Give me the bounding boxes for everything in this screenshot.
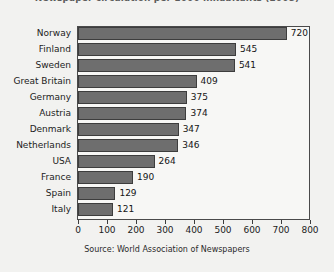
bar [78,91,187,104]
x-axis-tick [252,220,253,224]
bar-value-label: 346 [182,138,199,154]
bar [78,123,179,136]
bar-value-label: 121 [117,202,134,218]
bar [78,171,133,184]
source-caption: Source: World Association of Newspapers [0,245,334,254]
bar-row: Austria374 [0,106,334,122]
bar-row: Denmark347 [0,122,334,138]
x-axis-tick [165,220,166,224]
bar-value-label: 541 [239,58,256,74]
bar-row: Finland545 [0,42,334,58]
bar-value-label: 190 [137,170,154,186]
bar-category-label: Denmark [0,122,71,138]
bar-row: Great Britain409 [0,74,334,90]
bar [78,155,155,168]
bar-chart: Norway720Finland545Sweden541Great Britai… [0,0,334,272]
x-axis-tick [136,220,137,224]
bar [78,59,235,72]
bar-row: Sweden541 [0,58,334,74]
bar-category-label: Austria [0,106,71,122]
x-axis-tick [310,220,311,224]
bar-value-label: 545 [240,42,257,58]
bar-category-label: Netherlands [0,138,71,154]
bar-value-label: 264 [159,154,176,170]
bar-value-label: 375 [191,90,208,106]
bar-value-label: 129 [119,186,136,202]
x-axis-tick [78,220,79,224]
bar-value-label: 720 [291,26,308,42]
bar [78,27,287,40]
x-axis-tick [223,220,224,224]
x-axis-tick [281,220,282,224]
bar-value-label: 409 [201,74,218,90]
x-axis-tick [107,220,108,224]
bar-category-label: USA [0,154,71,170]
bar-category-label: Great Britain [0,74,71,90]
bar [78,107,186,120]
bar [78,203,113,216]
bar-rows: Norway720Finland545Sweden541Great Britai… [0,26,334,220]
bar-row: France190 [0,170,334,186]
bar-row: Spain129 [0,186,334,202]
bar-row: USA264 [0,154,334,170]
x-axis: 0100200300400500600700800 [77,220,311,244]
bar-row: Italy121 [0,202,334,218]
bar-value-label: 347 [183,122,200,138]
bar-category-label: Spain [0,186,71,202]
bar-row: Netherlands346 [0,138,334,154]
bar-category-label: Sweden [0,58,71,74]
bar-row: Germany375 [0,90,334,106]
x-axis-tick [194,220,195,224]
bar [78,43,236,56]
bar-category-label: Finland [0,42,71,58]
bar [78,139,178,152]
x-axis-tick-label: 800 [290,225,330,235]
bar-category-label: Italy [0,202,71,218]
bar-row: Norway720 [0,26,334,42]
bar-category-label: Norway [0,26,71,42]
bar-category-label: France [0,170,71,186]
bar [78,75,197,88]
bar [78,187,115,200]
bar-category-label: Germany [0,90,71,106]
bar-value-label: 374 [190,106,207,122]
